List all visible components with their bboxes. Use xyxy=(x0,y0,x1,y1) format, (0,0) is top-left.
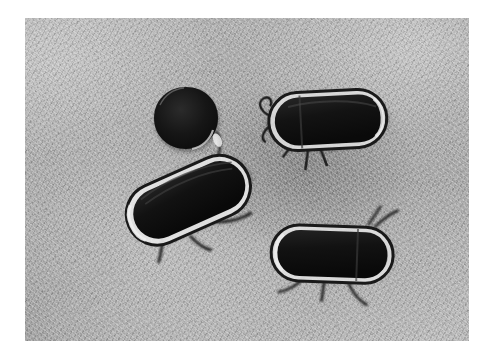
film-grain-overlay xyxy=(25,18,469,341)
photograph-frame xyxy=(25,18,469,341)
